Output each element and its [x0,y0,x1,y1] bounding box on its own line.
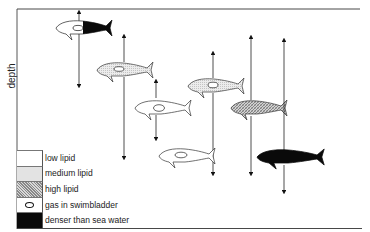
legend-item-dense: denser than sea water [17,212,217,228]
legend-item-low-lipid: low lipid [17,150,217,166]
legend-label: medium lipid [45,168,93,178]
medium-lipid-swatch [17,166,43,182]
swimbladder-icon [25,202,34,208]
legend-label: high lipid [45,184,79,194]
low-lipid-swatch [17,150,43,166]
legend: low lipid medium lipid high lipid gas in… [17,150,217,228]
legend-item-medium-lipid: medium lipid [17,166,217,182]
fish-2-medium-lipid-gas [97,36,153,158]
high-lipid-swatch [17,181,43,197]
buoyancy-depth-diagram: depth low lipid medium lipid high lipid … [0,0,370,232]
legend-item-high-lipid: high lipid [17,181,217,197]
y-axis-label: depth [6,56,18,96]
fish-7-dense [257,40,324,192]
legend-label: low lipid [45,153,75,163]
swimbladder-swatch [17,197,43,213]
legend-label: denser than sea water [45,215,129,225]
legend-item-gas: gas in swimbladder [17,197,217,213]
legend-label: gas in swimbladder [45,200,118,210]
dense-swatch [17,212,43,228]
fish-3-low-lipid-gas [135,81,191,139]
